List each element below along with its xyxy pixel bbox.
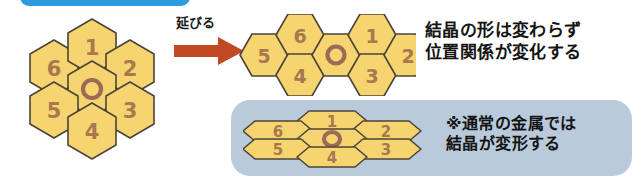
hex-label-2: 2 <box>123 57 138 81</box>
hex-label-5: 5 <box>257 45 270 67</box>
hex-label-5: 5 <box>273 141 283 159</box>
hex-label-1: 1 <box>365 25 378 47</box>
cluster-deformed-crystal: 1 6 2 5 3 <box>243 110 428 170</box>
hex-label-6: 6 <box>293 25 306 47</box>
hex-label-3: 3 <box>123 99 138 123</box>
cluster-shifted-crystal: 5 6 4 1 3 <box>236 14 416 96</box>
undeformed-hex-svg: 6 1 2 5 3 <box>22 16 162 171</box>
hex-label-5: 5 <box>47 99 62 123</box>
hex-label-1: 1 <box>85 36 100 60</box>
cluster-undeformed-crystal: 6 1 2 5 3 <box>22 16 162 171</box>
diagram-canvas: 6 1 2 5 3 <box>0 0 643 183</box>
note-caption: ※通常の金属では 結晶が変形する <box>446 114 577 155</box>
hex-label-3: 3 <box>381 141 391 159</box>
hex-label-4: 4 <box>293 65 306 87</box>
main-caption: 結晶の形は変わらず 位置関係が変化する <box>425 20 582 64</box>
hex-cell-4: 4 <box>297 147 367 167</box>
hex-label-2: 2 <box>401 45 414 67</box>
deformed-hex-svg: 1 6 2 5 3 <box>243 110 428 170</box>
hex-label-6: 6 <box>47 57 62 81</box>
hex-label-4: 4 <box>327 149 337 167</box>
arrow-label: 延びる <box>176 12 215 31</box>
hex-label-4: 4 <box>85 120 100 144</box>
hex-label-3: 3 <box>365 65 378 87</box>
shifted-hex-svg: 5 6 4 1 3 <box>236 14 416 96</box>
top-blue-tab <box>20 0 190 6</box>
